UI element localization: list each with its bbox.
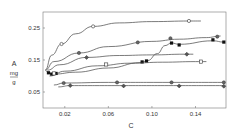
x-tick-label: 0.02 — [59, 111, 71, 117]
data-series — [45, 19, 226, 88]
x-tick-label: 0.06 — [103, 111, 115, 117]
y-tick-label: 0.15 — [28, 57, 40, 63]
svg-text:mg: mg — [10, 70, 18, 76]
data-point — [178, 43, 181, 46]
data-point — [68, 84, 72, 88]
x-tick-label: 0.10 — [146, 111, 158, 117]
y-tick-label: 0.25 — [28, 25, 40, 31]
svg-text:g: g — [12, 79, 15, 85]
data-point — [185, 52, 189, 56]
svg-text:A: A — [12, 60, 17, 67]
series-curve-3 — [46, 38, 225, 75]
x-axis-label: C — [128, 122, 133, 129]
series-curve-4 — [47, 52, 193, 70]
y-tick-label: 0.05 — [28, 89, 40, 95]
data-point — [170, 41, 173, 44]
y-axis-ticks: 0.050.150.25 — [28, 25, 45, 95]
data-point — [222, 40, 225, 43]
data-point — [85, 55, 89, 59]
series-curve-5 — [50, 60, 207, 76]
data-point — [211, 38, 214, 41]
data-point — [115, 81, 118, 84]
adsorption-chart: 0.020.060.100.14 0.050.150.25 C A mg g — [0, 0, 237, 134]
data-point — [47, 71, 50, 74]
data-point — [52, 72, 55, 75]
data-point — [122, 84, 126, 88]
y-axis-label: A mg g — [10, 60, 18, 85]
data-point — [62, 81, 65, 84]
data-point — [136, 41, 139, 44]
x-tick-label: 0.14 — [190, 111, 202, 117]
data-point — [199, 60, 202, 63]
data-point — [170, 81, 173, 84]
plot-frame — [43, 12, 226, 108]
data-point — [60, 42, 63, 45]
data-point — [222, 84, 226, 88]
series-curve-6 — [54, 81, 226, 85]
data-point — [177, 84, 181, 88]
data-point — [92, 25, 95, 28]
series-curve-1 — [45, 19, 201, 70]
x-axis-ticks: 0.020.060.100.14 — [59, 106, 202, 117]
series-curve-7 — [58, 84, 226, 89]
data-point — [105, 63, 108, 66]
data-point — [222, 81, 225, 84]
data-point — [145, 59, 148, 62]
series-curve-2 — [45, 35, 220, 70]
data-point — [216, 35, 219, 38]
data-point — [187, 19, 190, 22]
data-point — [77, 51, 80, 54]
data-point — [169, 37, 172, 40]
